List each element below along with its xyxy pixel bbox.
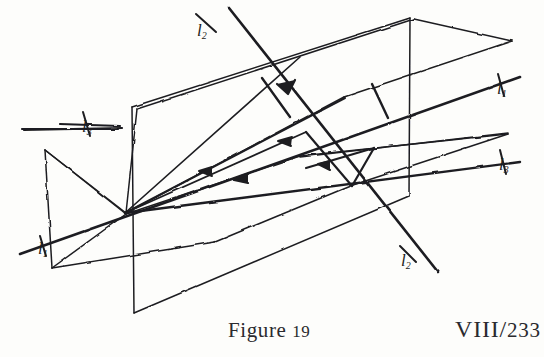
label-l3-left: l3 [82,118,92,137]
caption-row: Figure 19 VIII/233 [0,318,544,357]
label-l3-right: l3 [499,156,509,175]
page-reference-separator: / [500,316,507,342]
label-l2-bottom: l2 [401,252,411,271]
caption-number: 19 [292,322,310,341]
figure-page: l2 l1 l3 l3 l1 l2 Figure 19 VIII/233 [0,0,544,357]
line-l2-arrowhead [277,80,295,94]
geometry-diagram [0,0,544,357]
label-l1-right: l1 [497,80,507,99]
lower-plane-left-wing [45,150,126,268]
inner-triangle-arrowhead [318,161,330,170]
page-reference-chapter: VIII [455,316,500,342]
label-l1-left: l1 [38,240,48,259]
page-reference: VIII/233 [455,316,541,343]
caption-word: Figure [228,318,286,342]
page-reference-page: 233 [507,318,541,342]
label-l2-top: l2 [197,22,207,41]
line-l2 [229,8,438,272]
lower-plane-outline [45,134,508,268]
convergence-ray-arrowhead-a [199,167,212,176]
figure-caption: Figure 19 [228,318,310,343]
convergence-ray-arrowhead-b [278,137,292,146]
upper-plane-outline [126,19,512,213]
line-l3-main [125,162,520,213]
line-l1 [20,77,520,254]
